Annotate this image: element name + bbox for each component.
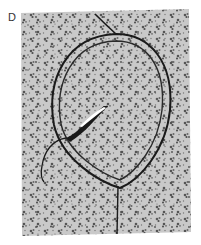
vertical-thread bbox=[117, 186, 118, 234]
illustration bbox=[0, 0, 201, 245]
textured-tissue-panel bbox=[21, 9, 191, 236]
